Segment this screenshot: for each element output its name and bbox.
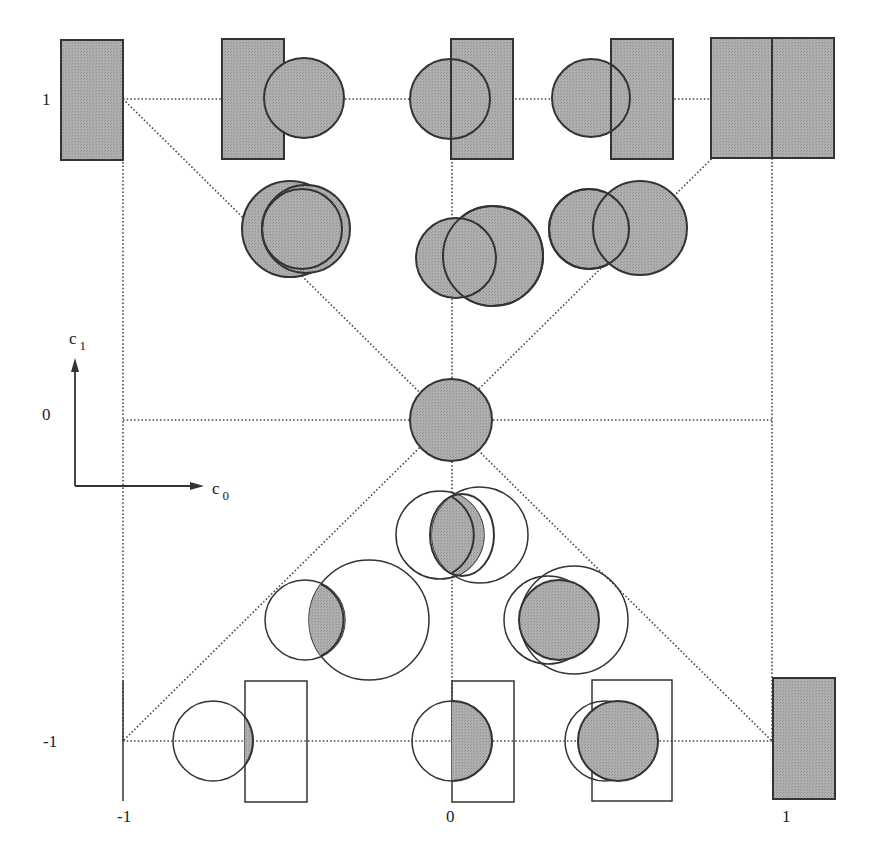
axis-label-c1: c1 <box>69 330 83 347</box>
shape-circle <box>264 58 344 138</box>
shape-circle <box>416 218 496 298</box>
x-tick-0: 0 <box>446 808 455 825</box>
shape-rect <box>61 40 123 160</box>
y-tick-1: 1 <box>42 91 51 108</box>
y-tick-0: 0 <box>42 406 51 423</box>
shape-rect <box>711 38 772 158</box>
shape-rect <box>772 38 834 158</box>
axis-label-subscript: 1 <box>80 338 87 353</box>
axis-label-text: c <box>69 329 77 348</box>
shape-circle <box>552 59 630 137</box>
axes-indicator <box>71 358 204 490</box>
y-tick-minus-1: -1 <box>43 733 57 750</box>
axis-label-subscript: 0 <box>223 488 230 503</box>
diagram-canvas <box>0 0 878 859</box>
x-tick-minus-1: -1 <box>117 808 131 825</box>
axis-label-c0: c0 <box>212 480 226 497</box>
shape-rect <box>773 678 835 799</box>
x-tick-1: 1 <box>782 808 791 825</box>
shape-circle <box>593 181 687 275</box>
shape-circle <box>578 701 658 781</box>
shape-circle <box>519 580 599 660</box>
axis-label-text: c <box>212 479 220 498</box>
shape-circle-center <box>410 379 492 461</box>
